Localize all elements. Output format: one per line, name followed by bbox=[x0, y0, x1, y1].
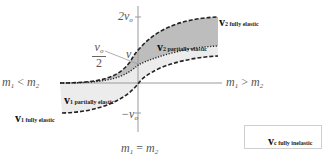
curve-label-v1-fully-elastic: v1 fully elastic bbox=[15, 109, 55, 125]
label-m1-equal-m2: m1 = m2 bbox=[121, 142, 158, 156]
tick-label-neg-v0: −vo bbox=[121, 108, 138, 122]
region-label-v1-partially-elastic: v1 partially elastic bbox=[64, 91, 114, 107]
label-m1-less-m2: m1 < m2 bbox=[2, 76, 39, 90]
curve-label-v2-fully-elastic: v2 fully elastic bbox=[219, 13, 259, 29]
region-label-v2-partially-elastic: v2 partially elastic bbox=[157, 38, 207, 54]
tick-label-2v0: 2vo bbox=[118, 10, 133, 24]
legend-label: vc fully inelastic bbox=[268, 132, 312, 148]
tick-label-half-v0: vo 2 bbox=[92, 41, 106, 69]
legend-box: vc fully inelastic bbox=[244, 125, 322, 149]
label-m1-greater-m2: m1 > m2 bbox=[226, 76, 263, 90]
center-point-label: v bbox=[126, 48, 131, 60]
